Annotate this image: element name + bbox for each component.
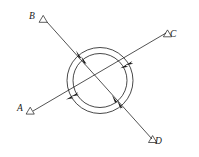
- station-label-d: D: [155, 137, 162, 147]
- station-label-c: C: [170, 30, 176, 40]
- line-a-c: [33, 33, 166, 111]
- figure-root: B C A D: [0, 0, 199, 157]
- line-b-d: [47, 22, 152, 139]
- station-label-b: B: [29, 12, 35, 22]
- station-marker-b-icon[interactable]: [39, 15, 47, 22]
- station-label-a: A: [17, 104, 23, 114]
- diagram-canvas: [0, 0, 199, 157]
- sight-line-group: [33, 22, 166, 139]
- station-marker-group: [26, 15, 172, 142]
